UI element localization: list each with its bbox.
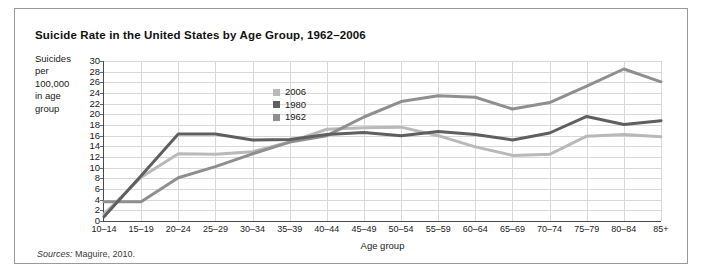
x-axis-tick-label: 55–59 bbox=[426, 225, 451, 234]
x-axis-tick-label: 50–54 bbox=[389, 225, 414, 234]
y-axis-tick-label: 30 bbox=[89, 56, 100, 66]
y-axis-tick-label: 10 bbox=[89, 163, 100, 173]
series-lines bbox=[104, 61, 661, 221]
x-axis-tick-label: 70–74 bbox=[537, 225, 562, 234]
x-axis-tick-label: 25–29 bbox=[203, 225, 228, 234]
y-axis-tick-label: 28 bbox=[89, 67, 100, 77]
chart-panel: Suicide Rate in the United States by Age… bbox=[14, 8, 688, 264]
x-axis-tick-labels: 10–1415–1920–2425–2930–3435–3940–4445–49… bbox=[104, 225, 661, 237]
y-axis-tick-label: 18 bbox=[89, 120, 100, 130]
y-axis-tick-label: 26 bbox=[89, 77, 100, 87]
x-axis-tick-label: 40–44 bbox=[314, 225, 339, 234]
x-axis-tick-label: 85+ bbox=[653, 225, 668, 234]
figure-root: Suicide Rate in the United States by Age… bbox=[0, 0, 702, 275]
x-axis-tick-label: 60–64 bbox=[463, 225, 488, 234]
x-axis-tick-label: 65–69 bbox=[500, 225, 525, 234]
legend-label: 2006 bbox=[285, 87, 306, 97]
y-axis-tick-label: 12 bbox=[89, 152, 100, 162]
y-axis-tick-label: 24 bbox=[89, 88, 100, 98]
series-line-2006 bbox=[104, 127, 661, 214]
x-axis-tick-label: 15–19 bbox=[129, 225, 154, 234]
x-axis-tick-label: 30–34 bbox=[240, 225, 265, 234]
legend-item-1962: 1962 bbox=[273, 111, 306, 124]
source-note-prefix: Sources: bbox=[37, 249, 73, 259]
series-line-1980 bbox=[104, 116, 661, 216]
gridline-vertical bbox=[661, 61, 662, 221]
chart-legend: 200619801962 bbox=[273, 86, 306, 124]
x-axis-tick-label: 20–24 bbox=[166, 225, 191, 234]
y-axis-tick-label: 16 bbox=[89, 131, 100, 141]
source-note-text: Maguire, 2010. bbox=[73, 249, 136, 259]
legend-swatch-icon bbox=[273, 114, 280, 121]
x-axis-tick-label: 45–49 bbox=[351, 225, 376, 234]
y-axis-tick-label: 22 bbox=[89, 99, 100, 109]
source-note: Sources: Maguire, 2010. bbox=[37, 249, 135, 259]
legend-label: 1980 bbox=[285, 100, 306, 110]
x-axis-tick-label: 10–14 bbox=[91, 225, 116, 234]
plot-area bbox=[104, 61, 661, 221]
x-axis-line bbox=[103, 221, 661, 222]
y-axis-tick-label: 20 bbox=[89, 109, 100, 119]
legend-item-2006: 2006 bbox=[273, 86, 306, 99]
x-axis-tick-label: 75–79 bbox=[574, 225, 599, 234]
x-axis-tick-label: 80–84 bbox=[611, 225, 636, 234]
legend-swatch-icon bbox=[273, 89, 280, 96]
y-axis-tick-labels: 024681012141618202224262830 bbox=[77, 61, 100, 221]
legend-label: 1962 bbox=[285, 112, 306, 122]
x-axis-tick-label: 35–39 bbox=[277, 225, 302, 234]
chart-title: Suicide Rate in the United States by Age… bbox=[35, 29, 366, 41]
x-axis-title: Age group bbox=[104, 240, 661, 251]
y-axis-tick-label: 14 bbox=[89, 141, 100, 151]
legend-swatch-icon bbox=[273, 101, 280, 108]
legend-item-1980: 1980 bbox=[273, 99, 306, 112]
